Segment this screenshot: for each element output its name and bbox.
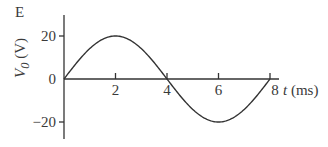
x-tick-labels: 2468 [112, 82, 279, 98]
y-tick-labels: 200−20 [33, 28, 56, 130]
y-tick-label: 0 [49, 71, 57, 87]
x-ticks [116, 73, 271, 79]
y-ticks [59, 36, 64, 122]
chart-svg: 200−20 2468 [0, 0, 328, 147]
y-axis-label-unit: (V) [12, 38, 28, 59]
x-tick-label: 6 [215, 82, 223, 98]
x-axis-label-unit: (ms) [291, 82, 319, 98]
y-tick-label: 20 [41, 28, 56, 44]
y-axis-label-var: V [12, 69, 28, 78]
x-tick-label: 8 [271, 82, 279, 98]
x-axis-label-var: t [283, 82, 287, 98]
y-axis-label-sub: 0 [18, 63, 32, 69]
x-tick-label: 2 [112, 82, 120, 98]
x-tick-label: 4 [163, 82, 171, 98]
x-axis-label: t (ms) [283, 83, 318, 98]
y-axis-label: V0 (V) [13, 38, 32, 78]
y-tick-label: −20 [33, 114, 56, 130]
panel-label: E [15, 5, 24, 20]
